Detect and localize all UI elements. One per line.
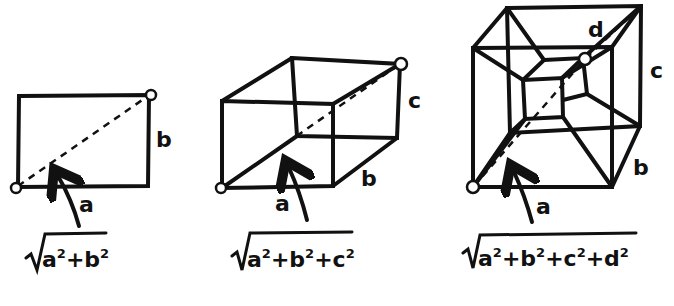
diagram-canvas: b a a2+b2 c b a a2+b2+c (0, 0, 674, 306)
label-d: d (588, 17, 604, 42)
formula-3d: a2+b2+c2 (232, 232, 355, 272)
exponent: 2 (57, 246, 66, 261)
svg-text:a2+b2+c2+d2: a2+b2+c2+d2 (478, 245, 629, 271)
tesseract-figure: d c b a a2+b2+c2+d2 (463, 6, 663, 271)
exponent: 2 (100, 246, 109, 261)
label-b: b (156, 127, 172, 152)
label-a: a (275, 191, 290, 216)
term-b: b (84, 247, 100, 272)
arrow-icon (514, 172, 532, 222)
arrow-icon (58, 176, 79, 226)
plus: + (66, 247, 84, 272)
svg-text:a2+b2+c2: a2+b2+c2 (247, 246, 355, 272)
inner-front-square (523, 78, 563, 119)
label-a: a (79, 192, 94, 217)
end-vertex-marker (579, 53, 591, 65)
term-a: a (42, 247, 57, 272)
start-vertex-marker (216, 183, 226, 193)
label-b: b (361, 166, 377, 191)
label-a: a (536, 194, 551, 219)
box-figure: c b a a2+b2+c2 (216, 58, 421, 272)
start-vertex-marker (467, 181, 479, 193)
end-vertex-marker (146, 90, 156, 100)
rectangle-figure: b a a2+b2 (11, 90, 172, 272)
diagonal-dashed-line (18, 96, 148, 186)
formula-2d: a2+b2 (26, 233, 109, 272)
label-c: c (408, 88, 421, 113)
label-b: b (633, 155, 649, 180)
end-vertex-marker (395, 58, 407, 70)
formula-4d: a2+b2+c2+d2 (463, 233, 636, 271)
svg-text:a2+b2: a2+b2 (42, 246, 109, 272)
arrow-icon (289, 168, 307, 220)
start-vertex-marker (11, 183, 21, 193)
label-c: c (650, 58, 663, 83)
